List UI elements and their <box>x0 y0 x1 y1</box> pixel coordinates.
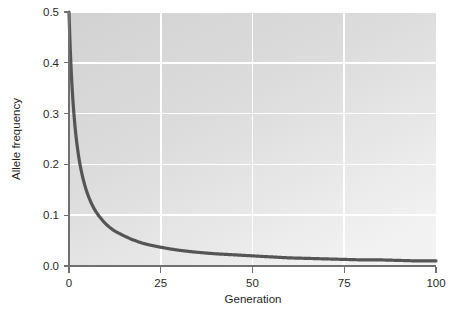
y-axis-title: Allele frequency <box>10 98 22 180</box>
x-tick-label: 100 <box>426 277 445 289</box>
x-axis-ticks <box>69 267 436 273</box>
y-tick-label: 0.1 <box>43 209 59 221</box>
chart-figure: 0.00.10.20.30.40.5 0255075100 Allele fre… <box>0 0 453 313</box>
y-tick-label: 0.2 <box>43 158 59 170</box>
y-tick-label: 0.5 <box>43 6 59 18</box>
x-tick-label: 50 <box>246 277 259 289</box>
allele-frequency-line-chart: 0.00.10.20.30.40.5 0255075100 Allele fre… <box>0 0 453 313</box>
y-axis-tick-labels: 0.00.10.20.30.40.5 <box>43 6 60 272</box>
x-tick-label: 0 <box>66 277 72 289</box>
y-tick-label: 0.0 <box>43 260 59 272</box>
x-axis-tick-labels: 0255075100 <box>66 277 446 289</box>
x-tick-label: 25 <box>154 277 167 289</box>
y-tick-label: 0.3 <box>43 108 59 120</box>
y-axis-ticks <box>64 12 69 266</box>
x-tick-label: 75 <box>338 277 351 289</box>
x-axis-title: Generation <box>225 293 282 305</box>
y-tick-label: 0.4 <box>43 57 60 69</box>
